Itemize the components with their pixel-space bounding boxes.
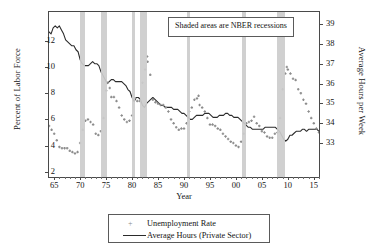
y-axis-right-title: Average Hours per Week [357, 36, 367, 146]
unemployment-marker [248, 121, 251, 124]
y-axis-left-tick-mark [45, 67, 48, 68]
unemployment-marker [71, 151, 74, 154]
y-axis-right-tick-label: 38 [326, 38, 366, 48]
unemployment-marker [206, 117, 209, 120]
unemployment-marker [209, 123, 212, 126]
unemployment-marker [219, 129, 222, 132]
x-axis-minor-tick-mark [174, 177, 175, 179]
recession-band [140, 12, 147, 177]
x-axis-minor-tick-mark [277, 177, 278, 179]
x-axis-minor-tick-mark [59, 177, 60, 179]
x-axis-tick-label: 70 [67, 180, 93, 190]
x-axis-minor-tick-mark [153, 177, 154, 179]
unemployment-marker [227, 138, 230, 141]
y-axis-right-tick-mark [320, 103, 323, 104]
y-axis-right-tick-label: 35 [326, 97, 366, 107]
unemployment-marker [255, 122, 258, 125]
y-axis-right-tick-label: 36 [326, 78, 366, 88]
annotation-text: Shaded areas are NBER recessions [175, 21, 287, 30]
x-axis-minor-tick-mark [148, 177, 149, 179]
x-axis-tick-mark [80, 177, 81, 180]
unemployment-marker [56, 139, 59, 142]
unemployment-marker [76, 151, 79, 154]
x-axis-tick-mark [184, 177, 185, 180]
x-axis-tick-label: 05 [249, 180, 275, 190]
y-axis-right-tick-mark [320, 84, 323, 85]
x-axis-minor-tick-mark [91, 177, 92, 179]
x-axis-minor-tick-mark [231, 177, 232, 179]
unemployment-marker [292, 78, 295, 81]
unemployment-marker [211, 123, 214, 126]
recession-band [101, 12, 108, 177]
unemployment-marker [94, 133, 97, 136]
unemployment-marker [197, 95, 200, 98]
recession-band [242, 12, 245, 177]
unemployment-marker [263, 131, 266, 134]
unemployment-marker [286, 66, 289, 69]
legend-label-average-hours: Average Hours (Private Sector) [147, 229, 251, 242]
unemployment-marker [118, 106, 121, 109]
unemployment-marker [222, 133, 225, 136]
x-axis-minor-tick-mark [111, 177, 112, 179]
unemployment-marker [258, 125, 261, 128]
unemployment-marker [201, 106, 204, 109]
unemployment-marker [250, 119, 253, 122]
x-axis-tick-mark [158, 177, 159, 180]
chart-legend: + Unemployment Rate Average Hours (Priva… [108, 214, 270, 243]
x-axis-minor-tick-mark [200, 177, 201, 179]
unemployment-marker [149, 74, 152, 77]
unemployment-marker [87, 118, 90, 121]
y-axis-right-tick-label: 39 [326, 18, 366, 28]
y-axis-right-tick-label: 37 [326, 58, 366, 68]
x-axis-minor-tick-mark [298, 177, 299, 179]
unemployment-marker [115, 100, 118, 103]
unemployment-marker [110, 96, 113, 99]
unemployment-marker [193, 98, 196, 101]
x-axis-tick-mark [210, 177, 211, 180]
x-axis-minor-tick-mark [194, 177, 195, 179]
unemployment-marker [310, 117, 313, 120]
x-axis-minor-tick-mark [283, 177, 284, 179]
x-axis-minor-tick-mark [189, 177, 190, 179]
x-axis-minor-tick-mark [65, 177, 66, 179]
unemployment-marker [261, 130, 264, 133]
recession-band [277, 12, 285, 177]
unemployment-marker [313, 122, 316, 125]
x-axis-minor-tick-mark [179, 177, 180, 179]
x-axis-tick-label: 10 [275, 180, 301, 190]
x-axis-tick-label: 65 [41, 180, 67, 190]
y-axis-left-tick-label: 6 [15, 113, 55, 123]
chart-figure: Percent of Labor Force Average Hours per… [0, 0, 378, 251]
unemployment-marker [175, 126, 178, 128]
x-axis-minor-tick-mark [319, 177, 320, 179]
y-axis-left-tick-label: 8 [15, 87, 55, 97]
recession-band [132, 12, 135, 177]
unemployment-marker [191, 106, 194, 109]
unemployment-marker [50, 129, 53, 132]
unemployment-marker [289, 72, 292, 75]
unemployment-marker [69, 150, 72, 153]
unemployment-marker [183, 127, 186, 130]
y-axis-left-tick-label: 10 [15, 61, 55, 71]
x-axis-minor-tick-mark [168, 177, 169, 179]
x-axis-minor-tick-mark [246, 177, 247, 179]
unemployment-marker [63, 147, 66, 150]
x-axis-minor-tick-mark [85, 177, 86, 179]
unemployment-marker [172, 122, 175, 125]
x-axis-tick-mark [106, 177, 107, 180]
unemployment-marker [235, 144, 238, 147]
x-axis-tick-mark [132, 177, 133, 180]
unemployment-marker [266, 135, 269, 138]
unemployment-marker [302, 98, 305, 101]
annotation-box: Shaded areas are NBER recessions [168, 17, 294, 37]
y-axis-right-tick-label: 34 [326, 117, 366, 127]
unemployment-marker [97, 134, 100, 137]
y-axis-right-tick-mark [320, 123, 323, 124]
y-axis-left-tick-mark [45, 119, 48, 120]
x-axis-minor-tick-mark [101, 177, 102, 179]
x-axis-minor-tick-mark [241, 177, 242, 179]
x-axis-tick-mark [314, 177, 315, 180]
x-axis-minor-tick-mark [226, 177, 227, 179]
x-axis-minor-tick-mark [293, 177, 294, 179]
x-axis-minor-tick-mark [75, 177, 76, 179]
